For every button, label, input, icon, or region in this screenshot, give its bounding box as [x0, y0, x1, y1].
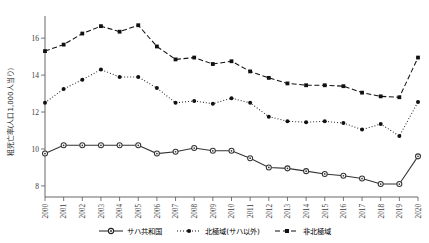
data-point — [231, 150, 233, 152]
y-tick-label: 8 — [35, 182, 39, 191]
x-tick-label: 2020 — [415, 204, 423, 219]
legend-label-non-arctic: 非北極域 — [303, 226, 331, 236]
x-tick-label: 2005 — [135, 204, 143, 219]
data-point — [286, 82, 290, 86]
x-tick-label: 2019 — [396, 204, 404, 219]
data-point — [175, 151, 177, 153]
data-point — [304, 83, 308, 87]
data-point — [248, 101, 252, 105]
data-point — [155, 45, 159, 49]
data-point — [361, 178, 363, 180]
data-point — [211, 62, 215, 66]
data-point — [305, 170, 307, 172]
y-tick-label: 12 — [32, 108, 40, 117]
x-tick-label: 2018 — [378, 204, 386, 219]
x-tick-label: 2008 — [191, 204, 199, 219]
x-tick-label: 2012 — [266, 204, 274, 219]
data-point — [230, 59, 234, 63]
x-axis-ticks: 2000200120022003200420052006200720082009… — [42, 197, 423, 218]
data-point — [323, 119, 327, 123]
data-point — [416, 100, 420, 104]
legend-item-sakha[interactable]: サハ共和国 — [98, 226, 162, 236]
data-point — [192, 56, 196, 60]
data-point — [118, 30, 122, 34]
x-tick-label: 2002 — [79, 204, 87, 219]
data-point — [360, 91, 364, 95]
data-point — [174, 58, 178, 62]
y-axis-title: 粗死亡率(人口1,000人当り) — [6, 67, 15, 156]
data-point — [397, 134, 401, 138]
data-point — [80, 78, 84, 82]
data-point — [119, 144, 121, 146]
data-point — [267, 115, 271, 119]
y-axis-ticks: 810121416 — [32, 34, 46, 191]
legend-label-sakha: サハ共和国 — [127, 226, 162, 236]
data-point — [137, 144, 139, 146]
data-point — [136, 75, 140, 79]
data-point — [118, 75, 122, 79]
chart-figure: 粗死亡率(人口1,000人当り) 810121416 2000200120022… — [0, 0, 429, 243]
data-point — [324, 173, 326, 175]
data-point — [341, 121, 345, 125]
data-point — [249, 157, 251, 159]
x-tick-label: 2003 — [98, 204, 106, 219]
legend-swatch-sakha — [98, 226, 124, 236]
data-point — [397, 95, 401, 99]
data-point — [267, 76, 271, 80]
data-point — [193, 147, 195, 149]
data-point — [174, 101, 178, 105]
data-point — [399, 183, 401, 185]
x-tick-label: 2011 — [247, 204, 255, 219]
data-point — [43, 49, 47, 53]
x-tick-label: 2017 — [359, 204, 367, 219]
data-point — [379, 94, 383, 98]
data-point — [80, 32, 84, 36]
data-point — [62, 87, 66, 91]
data-point — [100, 144, 102, 146]
data-point — [62, 43, 66, 47]
y-tick-label: 14 — [32, 71, 40, 80]
data-point — [417, 156, 419, 158]
x-tick-label: 2015 — [322, 204, 330, 219]
series-1 — [43, 143, 421, 187]
x-tick-label: 2016 — [340, 204, 348, 219]
x-tick-label: 2014 — [303, 204, 311, 219]
legend-item-non-arctic[interactable]: 非北極域 — [274, 226, 331, 236]
data-point — [380, 183, 382, 185]
y-tick-label: 10 — [32, 145, 40, 154]
data-point — [304, 120, 308, 124]
data-point — [230, 96, 234, 100]
data-point — [156, 153, 158, 155]
data-point — [342, 84, 346, 88]
series-2 — [43, 68, 420, 138]
data-point — [44, 153, 46, 155]
data-point — [285, 119, 289, 123]
x-tick-label: 2004 — [116, 204, 124, 219]
data-point — [99, 24, 103, 28]
data-point — [211, 102, 215, 106]
data-point — [192, 99, 196, 103]
data-point — [81, 144, 83, 146]
data-point — [287, 168, 289, 170]
series-layer — [43, 23, 421, 186]
data-point — [63, 144, 65, 146]
legend-item-arctic-excl-sakha[interactable]: 北極域(サハ以外) — [176, 226, 260, 236]
x-tick-label: 2007 — [172, 204, 180, 219]
series-line — [45, 70, 418, 136]
data-point — [360, 128, 364, 132]
x-tick-label: 2010 — [228, 204, 236, 219]
x-tick-label: 2006 — [154, 204, 162, 219]
x-tick-label: 2000 — [42, 204, 50, 219]
mortality-line-chart: 粗死亡率(人口1,000人当り) 810121416 2000200120022… — [0, 0, 429, 243]
x-tick-label: 2013 — [284, 204, 292, 219]
data-point — [212, 150, 214, 152]
data-point — [379, 122, 383, 126]
series-3 — [43, 23, 420, 99]
legend-swatch-non-arctic — [274, 226, 300, 236]
data-point — [136, 23, 140, 27]
legend-swatch-arctic-excl-sakha — [176, 226, 202, 236]
data-point — [343, 175, 345, 177]
data-point — [248, 70, 252, 74]
y-tick-label: 16 — [32, 34, 40, 43]
data-point — [323, 83, 327, 87]
